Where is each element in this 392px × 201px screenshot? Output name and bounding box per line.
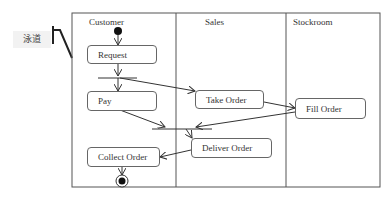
- activity-label: Fill Order: [306, 104, 342, 114]
- lane-title-stockroom: Stockroom: [293, 17, 333, 27]
- lane-title-customer: Customer: [89, 17, 124, 27]
- activity-pay: Pay: [87, 91, 157, 111]
- activity-label: Collect Order: [98, 152, 147, 162]
- activity-label: Request: [98, 50, 127, 60]
- end-node: [119, 178, 126, 185]
- activity-label: Pay: [98, 96, 112, 106]
- activity-take-order: Take Order: [195, 90, 264, 109]
- activity-request: Request: [87, 45, 157, 64]
- callout-pointer: [53, 26, 72, 58]
- activity-fill-order: Fill Order: [295, 98, 366, 119]
- activity-deliver-order: Deliver Order: [191, 138, 272, 158]
- start-node: [114, 27, 122, 35]
- activity-label: Take Order: [206, 95, 247, 105]
- activity-collect-order: Collect Order: [87, 147, 160, 167]
- lane-title-sales: Sales: [205, 17, 224, 27]
- activity-label: Deliver Order: [202, 143, 252, 153]
